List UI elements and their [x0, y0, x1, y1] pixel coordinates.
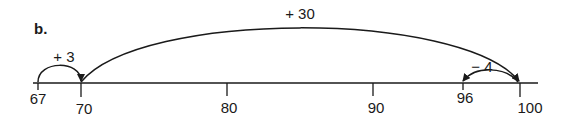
tick-96: 96 — [457, 83, 474, 106]
tick-label-67: 67 — [30, 90, 47, 107]
jump-label-plus-3: + 3 — [53, 48, 74, 65]
part-label: b. — [34, 20, 47, 37]
tick-100: 100 — [517, 83, 542, 116]
jump-label-minus-4: − 4 — [471, 58, 492, 75]
tick-label-96: 96 — [457, 89, 474, 106]
tick-label-80: 80 — [221, 99, 238, 116]
arrow-arc-icon — [38, 65, 81, 82]
tick-90: 90 — [368, 83, 385, 116]
jump-minus-4: − 4 — [463, 58, 518, 82]
number-line-diagram: b. 67 70 80 90 96 100 + 3 + 30 − 4 — [0, 0, 570, 129]
arrow-arc-icon — [81, 28, 519, 82]
tick-label-90: 90 — [368, 99, 385, 116]
jump-plus-30: + 30 — [81, 5, 519, 82]
tick-label-100: 100 — [517, 99, 542, 116]
tick-70: 70 — [76, 83, 93, 117]
jump-plus-3: + 3 — [38, 48, 81, 82]
tick-label-70: 70 — [76, 100, 93, 117]
tick-80: 80 — [221, 83, 238, 116]
jump-label-plus-30: + 30 — [285, 5, 315, 22]
tick-67: 67 — [30, 83, 47, 107]
